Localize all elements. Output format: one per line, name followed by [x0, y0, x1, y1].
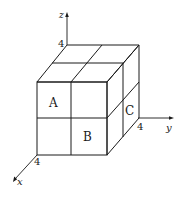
region-label-a: A [48, 96, 58, 110]
z-axis-label: z [58, 10, 64, 20]
z-arrow-icon [65, 12, 69, 17]
region-label-c: C [125, 104, 134, 118]
x-axis: x 4 [13, 155, 40, 187]
z-axis: z 4 [58, 10, 69, 49]
y-axis: y 4 [137, 116, 174, 133]
region-label-b: B [83, 130, 92, 144]
y-tick-4: 4 [137, 121, 143, 132]
y-axis-label: y [165, 122, 172, 133]
cube-diagram: z 4 y 4 x 4 A B C [0, 0, 188, 199]
x-axis-label: x [17, 176, 23, 187]
x-tick-4: 4 [34, 156, 40, 167]
z-tick-4: 4 [58, 38, 64, 49]
y-arrow-icon [169, 116, 174, 120]
